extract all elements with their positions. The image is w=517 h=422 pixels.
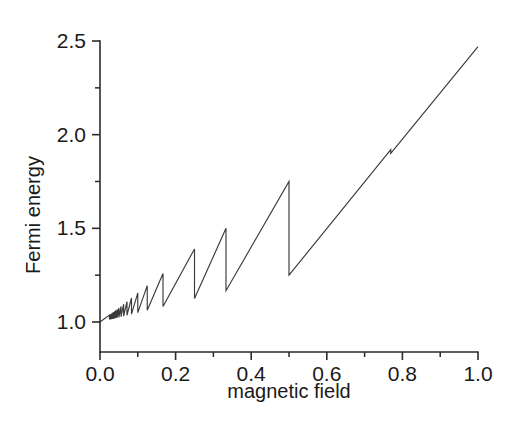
x-tick-label: 0.0 bbox=[85, 362, 114, 385]
fermi-energy-chart: 1.01.52.02.5 0.00.20.40.60.81.0 magnetic… bbox=[0, 0, 517, 422]
y-tick-label: 2.0 bbox=[57, 123, 86, 146]
data-series-group bbox=[100, 47, 478, 322]
x-tick-label: 0.8 bbox=[388, 362, 417, 385]
y-tick-label: 2.5 bbox=[57, 29, 86, 52]
y-axis-title: Fermi energy bbox=[22, 156, 44, 274]
x-axis-title: magnetic field bbox=[227, 380, 350, 402]
fermi-energy-curve bbox=[100, 47, 478, 322]
figure-container: 1.01.52.02.5 0.00.20.40.60.81.0 magnetic… bbox=[0, 0, 517, 422]
x-axis-ticks bbox=[100, 352, 478, 360]
y-tick-label: 1.5 bbox=[57, 216, 86, 239]
x-tick-label: 0.2 bbox=[161, 362, 190, 385]
y-axis-tick-labels: 1.01.52.02.5 bbox=[57, 29, 86, 333]
y-tick-label: 1.0 bbox=[57, 310, 86, 333]
y-axis-ticks bbox=[92, 41, 100, 322]
x-tick-label: 1.0 bbox=[463, 362, 492, 385]
